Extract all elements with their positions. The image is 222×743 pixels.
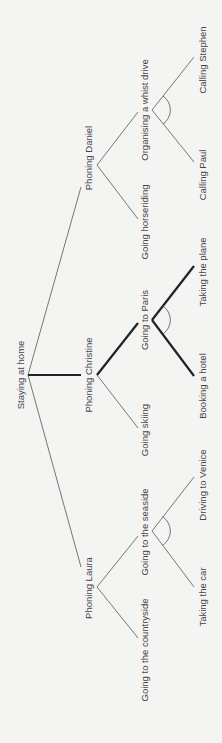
and-arc-seaside (163, 517, 170, 545)
node-whist-label: Organising a whist drive (139, 59, 150, 160)
node-stephen-label: Calling Stephen (197, 26, 208, 93)
node-countryside-label: Going to the countryside (139, 599, 150, 702)
node-horseriding-label: Going horseriding (139, 185, 150, 260)
edge-laura-seaside (97, 536, 138, 587)
edge-christine-paris (97, 323, 138, 375)
edge-whist-stephen (152, 57, 194, 110)
and-arc-paris (163, 306, 170, 334)
edge-daniel-horseriding (97, 165, 138, 219)
edge-root-laura (28, 375, 81, 567)
edge-root-daniel (28, 187, 81, 375)
node-christine-label: Phoning Christine (83, 338, 94, 413)
edge-laura-countryside (97, 587, 138, 638)
edge-seaside-venice (152, 477, 194, 531)
and-arc-whist (163, 96, 170, 124)
node-root-label: Staying at home (15, 341, 26, 410)
node-hotel-label: Booking a hotel (197, 353, 208, 419)
node-seaside-label: Going to the seaside (139, 488, 150, 575)
node-venice-label: Driving to Venice (197, 449, 208, 520)
node-plane-label: Taking the plane (197, 237, 208, 306)
node-laura-label: Phoning Laura (83, 556, 94, 619)
edge-christine-skiing (97, 375, 138, 428)
edge-seaside-car (152, 531, 194, 587)
node-paris-label: Going to Paris (139, 290, 150, 350)
node-paul-label: Calling Paul (197, 150, 208, 201)
edge-daniel-whist (97, 112, 138, 165)
goal-tree-diagram: Staying at home Phoning Daniel Phoning C… (0, 0, 222, 743)
edge-paris-hotel (152, 320, 194, 376)
edge-paris-plane (152, 266, 194, 320)
node-car-label: Taking the car (197, 567, 208, 626)
node-daniel-label: Phoning Daniel (83, 126, 94, 190)
edge-whist-paul (152, 110, 194, 162)
node-skiing-label: Going skiing (139, 404, 150, 456)
